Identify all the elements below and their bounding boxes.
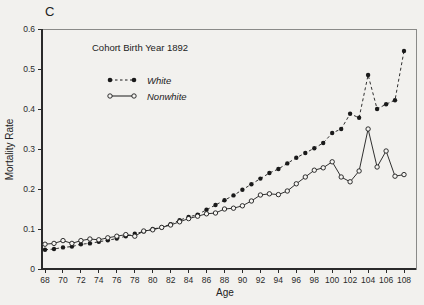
x-tick-label: 78	[130, 275, 140, 285]
nonwhite-series-marker	[285, 189, 289, 193]
x-tick-label: 102	[343, 275, 357, 285]
white-series-marker	[249, 182, 253, 186]
nonwhite-series-marker	[249, 199, 253, 203]
legend: White Nonwhite	[106, 72, 187, 104]
nonwhite-series-marker	[160, 225, 164, 229]
x-tick-label: 72	[76, 275, 86, 285]
x-tick-label: 74	[94, 275, 104, 285]
x-tick-label: 80	[148, 275, 158, 285]
white-series-marker	[375, 107, 379, 111]
nonwhite-series-marker	[366, 127, 370, 131]
white-series-marker	[294, 156, 298, 160]
y-tick-label: 0	[30, 264, 35, 274]
white-series-marker	[402, 49, 406, 53]
white-series-marker	[384, 102, 388, 106]
white-series-marker	[43, 248, 47, 252]
white-series-marker	[348, 112, 352, 116]
nonwhite-series-marker	[384, 149, 388, 153]
y-tick-label: 0.2	[23, 184, 35, 194]
mortality-chart-plot: 6870727476788082848688909294969810010210…	[0, 0, 424, 305]
nonwhite-series-marker	[402, 172, 406, 176]
x-tick-label: 82	[166, 275, 176, 285]
nonwhite-series-marker	[348, 180, 352, 184]
white-series-marker	[258, 176, 262, 180]
x-tick-label: 106	[379, 275, 393, 285]
x-tick-label: 100	[325, 275, 339, 285]
plot-frame	[42, 29, 416, 269]
nonwhite-series-marker	[115, 234, 119, 238]
nonwhite-series-marker	[133, 234, 137, 238]
y-tick-label: 0.5	[23, 64, 35, 74]
nonwhite-series-marker	[339, 175, 343, 179]
nonwhite-series-marker	[393, 174, 397, 178]
legend-item-nonwhite: Nonwhite	[106, 88, 187, 104]
y-tick-label: 0.6	[23, 24, 35, 34]
x-tick-label: 70	[58, 275, 68, 285]
nonwhite-series-marker	[213, 211, 217, 215]
white-series-marker	[213, 203, 217, 207]
nonwhite-series-marker	[97, 238, 101, 242]
nonwhite-series-line	[45, 129, 404, 244]
nonwhite-series-marker	[106, 236, 110, 240]
white-series-marker	[330, 131, 334, 135]
white-series-marker	[357, 116, 361, 120]
x-tick-label: 86	[202, 275, 212, 285]
nonwhite-series-marker	[240, 204, 244, 208]
x-tick-label: 104	[361, 275, 375, 285]
white-series-marker	[88, 241, 92, 245]
x-tick-label: 88	[220, 275, 230, 285]
nonwhite-series-swatch-icon	[106, 91, 138, 101]
panel-label: C	[45, 4, 55, 19]
white-series-marker	[339, 127, 343, 131]
legend-label-white: White	[147, 75, 171, 86]
nonwhite-series-marker	[177, 220, 181, 224]
nonwhite-series-marker	[204, 212, 208, 216]
nonwhite-series-marker	[321, 166, 325, 170]
x-tick-label: 94	[274, 275, 284, 285]
nonwhite-series-marker	[330, 160, 334, 164]
white-series-line	[45, 51, 404, 250]
nonwhite-series-marker	[267, 192, 271, 196]
nonwhite-series-marker	[124, 232, 128, 236]
x-tick-label: 108	[397, 275, 411, 285]
white-series-swatch-icon	[106, 75, 138, 85]
x-tick-label: 92	[256, 275, 266, 285]
y-tick-label: 0.1	[23, 224, 35, 234]
x-tick-label: 84	[184, 275, 194, 285]
nonwhite-series-marker	[168, 223, 172, 227]
white-series-marker	[240, 188, 244, 192]
nonwhite-series-marker	[61, 238, 65, 242]
nonwhite-series-marker	[52, 241, 56, 245]
legend-label-nonwhite: Nonwhite	[147, 91, 187, 102]
nonwhite-series-marker	[88, 237, 92, 241]
nonwhite-series-marker	[195, 214, 199, 218]
white-series-marker	[366, 73, 370, 77]
chart-title: Cohort Birth Year 1892	[92, 42, 188, 53]
y-axis-label: Mortality Rate	[4, 105, 17, 195]
y-tick-label: 0.4	[23, 104, 35, 114]
white-series-marker	[285, 161, 289, 165]
nonwhite-series-marker	[151, 228, 155, 232]
white-series-marker	[312, 146, 316, 150]
x-tick-label: 76	[112, 275, 122, 285]
nonwhite-series-marker	[303, 175, 307, 179]
nonwhite-series-marker	[70, 241, 74, 245]
white-series-marker	[303, 151, 307, 155]
nonwhite-series-marker	[294, 182, 298, 186]
x-tick-label: 96	[292, 275, 302, 285]
nonwhite-series-marker	[258, 193, 262, 197]
white-series-marker	[61, 245, 65, 249]
white-series-marker	[267, 171, 271, 175]
nonwhite-series-marker	[186, 216, 190, 220]
nonwhite-series-marker	[142, 229, 146, 233]
nonwhite-series-marker	[231, 206, 235, 210]
white-series-marker	[222, 198, 226, 202]
x-tick-label: 98	[310, 275, 320, 285]
white-series-marker	[276, 167, 280, 171]
nonwhite-series-marker	[79, 238, 83, 242]
white-series-marker	[321, 141, 325, 145]
x-tick-label: 90	[238, 275, 248, 285]
nonwhite-series-marker	[222, 207, 226, 211]
nonwhite-series-marker	[357, 169, 361, 173]
mortality-rate-figure: 6870727476788082848688909294969810010210…	[0, 0, 424, 305]
